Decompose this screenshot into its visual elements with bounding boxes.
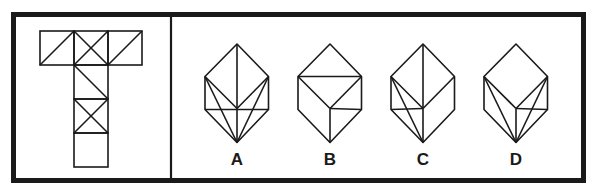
net-face-2 [74,31,108,65]
cube-edge [298,77,330,109]
option-label: A [231,150,243,169]
cube-edge [484,77,516,109]
option-label: C [417,150,429,169]
cube-edge [330,77,362,109]
puzzle-figure: ABCD [0,0,599,195]
option-b[interactable]: B [298,44,362,169]
net-face-4 [74,65,108,99]
cube-net [40,31,142,167]
net-face-1 [40,31,74,65]
option-a[interactable]: A [205,44,269,169]
cube-edge [237,77,269,109]
option-d[interactable]: D [484,44,548,169]
cube-edge [484,77,516,143]
cube-edge [330,109,362,110]
cube-edge [516,77,548,109]
net-face-5 [74,99,108,133]
option-label: D [510,150,522,169]
cube-edge [423,77,455,109]
net-face-3 [108,31,142,65]
option-label: B [324,150,336,169]
net-face-6 [74,133,108,167]
cube-edge [391,77,423,109]
answer-options: ABCD [205,44,548,169]
cube-edge [205,77,237,109]
option-c[interactable]: C [391,44,455,169]
